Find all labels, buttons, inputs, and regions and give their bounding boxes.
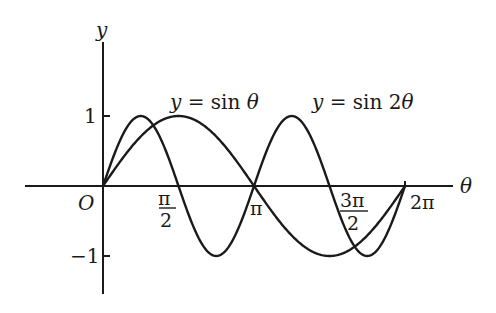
x-axis-label: θ: [460, 174, 472, 198]
svg-text:2: 2: [347, 212, 359, 234]
chart-canvas: y θ O 1 −1 π 2 π 3π 2 2π y = sin θ y = s…: [0, 0, 496, 313]
x-tick-label-pi: π: [250, 197, 263, 219]
svg-text:3π: 3π: [340, 189, 365, 211]
y-axis-label: y: [95, 18, 108, 42]
y-tick-label-1: 1: [84, 104, 97, 128]
sin-2theta-annotation: y = sin 2θ: [311, 90, 413, 114]
svg-text:π: π: [158, 187, 171, 209]
sin-theta-annotation: y = sin θ: [169, 90, 259, 114]
svg-text:2: 2: [160, 209, 172, 231]
origin-label: O: [78, 191, 94, 215]
x-tick-label-pi-half: π 2: [158, 187, 176, 231]
x-tick-label-2pi: 2π: [410, 191, 435, 213]
y-tick-label-neg1: −1: [70, 244, 99, 268]
